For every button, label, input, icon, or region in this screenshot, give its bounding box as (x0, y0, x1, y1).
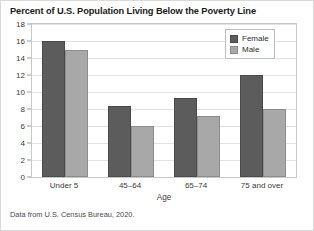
x-axis-tick-label: 65–74 (185, 181, 207, 190)
poverty-line-bar-chart-figure: Percent of U.S. Population Living Below … (0, 0, 314, 231)
bar-male (65, 50, 88, 177)
x-axis-label: Age (31, 193, 297, 202)
bar-female (42, 41, 65, 177)
y-axis: 181614121086420 (1, 23, 31, 178)
y-axis-tick-label: 8 (21, 105, 25, 114)
bar-female (174, 98, 197, 177)
legend-label: Female (242, 34, 269, 43)
chart-legend: FemaleMale (225, 29, 275, 59)
bar-male (131, 126, 154, 177)
y-axis-tick-label: 10 (16, 88, 25, 97)
bar-male (197, 116, 220, 177)
y-axis-tick-label: 12 (16, 71, 25, 80)
source-note: Data from U.S. Census Bureau, 2020. (10, 210, 134, 219)
legend-item-female: Female (230, 33, 269, 44)
y-axis-tick-label: 18 (16, 20, 25, 29)
bar-group (98, 24, 164, 177)
y-axis-tick-label: 4 (21, 139, 25, 148)
y-axis-tick-label: 6 (21, 122, 25, 131)
x-axis-tick-label: 75 and over (241, 181, 283, 190)
legend-swatch-icon (230, 46, 238, 54)
bar-group (32, 24, 98, 177)
legend-label: Male (242, 45, 259, 54)
bar-group (164, 24, 230, 177)
legend-swatch-icon (230, 35, 238, 43)
bar-male (263, 109, 286, 177)
x-axis-tick-label: 45–64 (119, 181, 141, 190)
bar-female (108, 106, 131, 177)
legend-item-male: Male (230, 44, 269, 55)
bar-female (240, 75, 263, 177)
y-axis-tick-label: 0 (21, 173, 25, 182)
y-axis-tick-label: 2 (21, 156, 25, 165)
x-axis-tick-label: Under 5 (50, 181, 78, 190)
chart-title: Percent of U.S. Population Living Below … (10, 6, 256, 16)
y-axis-tick-label: 16 (16, 37, 25, 46)
y-axis-tick-label: 14 (16, 54, 25, 63)
